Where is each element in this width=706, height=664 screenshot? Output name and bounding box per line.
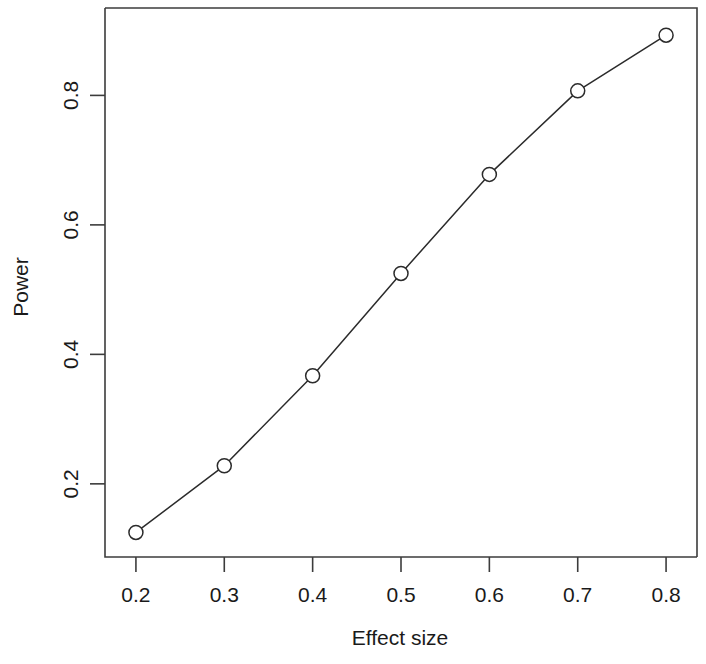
x-tick-label: 0.6 (475, 583, 504, 606)
chart-canvas: 0.20.30.40.50.60.70.8 0.20.40.60.8 Effec… (0, 0, 706, 664)
data-point-marker (659, 28, 673, 42)
data-point-marker (217, 459, 231, 473)
x-tick-label: 0.7 (563, 583, 592, 606)
x-axis-title: Effect size (352, 626, 449, 649)
y-axis-title: Power (9, 257, 32, 317)
x-tick-label: 0.8 (651, 583, 680, 606)
x-tick-label: 0.3 (210, 583, 239, 606)
chart-background (0, 0, 706, 664)
x-tick-label: 0.5 (386, 583, 415, 606)
y-tick-label: 0.2 (59, 469, 82, 498)
power-curve-chart: 0.20.30.40.50.60.70.8 0.20.40.60.8 Effec… (0, 0, 706, 664)
data-point-marker (482, 167, 496, 181)
x-tick-label: 0.2 (121, 583, 150, 606)
y-tick-label: 0.4 (59, 339, 82, 369)
data-point-marker (306, 369, 320, 383)
y-tick-label: 0.8 (59, 81, 82, 110)
y-tick-label: 0.6 (59, 210, 82, 239)
data-point-marker (571, 84, 585, 98)
x-tick-label: 0.4 (298, 583, 328, 606)
data-point-marker (394, 266, 408, 280)
data-point-marker (129, 525, 143, 539)
